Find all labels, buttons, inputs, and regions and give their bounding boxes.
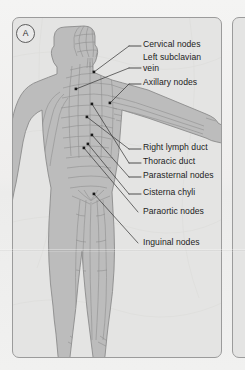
label-right-lymph-duct: Right lymph duct: [143, 142, 208, 153]
label-axillary-nodes: Axillary nodes: [143, 77, 197, 88]
label-paraortic-nodes: Paraortic nodes: [143, 206, 204, 217]
scan-seam: [0, 249, 245, 252]
label-inguinal-nodes: Inguinal nodes: [143, 237, 200, 248]
label-cisterna-chyli: Cisterna chyli: [143, 187, 195, 198]
label-layer: Cervical nodes Left subclavian vein Axil…: [0, 0, 245, 370]
label-left-subclavian-vein-line2: vein: [143, 63, 159, 74]
figure-stage: A Cervical nodes Left subclavian vein Ax…: [0, 0, 245, 370]
label-thoracic-duct: Thoracic duct: [143, 156, 195, 167]
label-cervical-nodes: Cervical nodes: [143, 39, 201, 50]
label-parasternal-nodes: Parasternal nodes: [143, 170, 214, 181]
label-left-subclavian-vein: Left subclavian: [143, 52, 201, 63]
